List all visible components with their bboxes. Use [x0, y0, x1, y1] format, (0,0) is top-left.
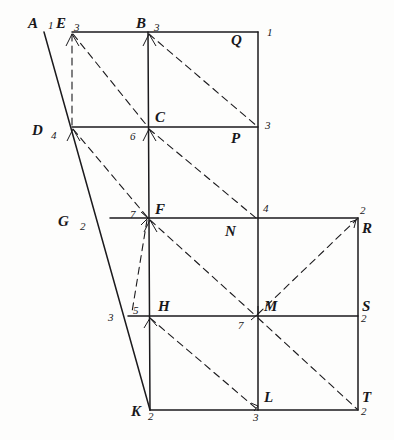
measure-label-n-h1: 3 — [108, 312, 114, 323]
measure-label-n-m: 7 — [238, 320, 244, 331]
measure-label-n-d: 4 — [51, 130, 57, 141]
point-label-p: P — [231, 131, 240, 146]
dash-F-K — [132, 220, 147, 312]
measure-label-n-q: 1 — [267, 27, 273, 38]
measure-label-n-n: 4 — [263, 203, 269, 214]
vertex-tick-4 — [67, 129, 73, 141]
geometry-figure: AEBQDCPGFNRHMSKLT133146327423572232 — [0, 0, 394, 440]
point-label-b: B — [136, 16, 146, 31]
vertex-tick-15 — [150, 318, 157, 326]
point-label-k: K — [131, 404, 141, 419]
measure-label-n-s: 2 — [361, 313, 367, 324]
point-label-d: D — [32, 123, 43, 138]
point-label-f: F — [155, 202, 165, 217]
point-label-q: Q — [231, 33, 242, 48]
point-label-g: G — [58, 214, 69, 229]
measure-label-n-a: 1 — [48, 20, 54, 31]
measure-label-n-b: 3 — [154, 22, 160, 33]
point-label-c: C — [155, 110, 165, 125]
point-label-m: M — [264, 299, 278, 314]
point-label-h: H — [158, 299, 170, 314]
measure-label-n-f: 7 — [130, 209, 136, 220]
measure-label-n-e: 3 — [74, 22, 80, 33]
point-label-r: R — [362, 221, 372, 236]
vertex-tick-10 — [251, 314, 258, 320]
point-label-a: A — [28, 16, 38, 31]
vertex-tick-18 — [141, 212, 148, 218]
point-label-t: T — [362, 390, 371, 405]
measure-label-n-k: 2 — [148, 411, 154, 422]
point-label-n: N — [225, 224, 236, 239]
dash-E-C — [73, 34, 148, 127]
vertex-tick-0 — [66, 34, 72, 46]
measure-label-n-r: 2 — [360, 205, 366, 216]
vertex-tick-3 — [149, 34, 156, 46]
point-label-l: L — [264, 390, 273, 405]
measure-label-n-t: 2 — [361, 406, 367, 417]
measure-label-n-c: 6 — [130, 131, 136, 142]
dash-H-L — [150, 318, 258, 410]
measure-label-n-p: 3 — [265, 120, 271, 131]
measure-label-n-l: 3 — [253, 412, 259, 423]
point-label-e: E — [56, 16, 66, 31]
measure-label-n-h2: 5 — [133, 305, 139, 316]
vertex-tick-1 — [72, 34, 79, 46]
measure-label-n-g: 2 — [80, 221, 86, 232]
vertex-tick-9 — [150, 220, 157, 232]
vertex-tick-7 — [149, 129, 156, 141]
